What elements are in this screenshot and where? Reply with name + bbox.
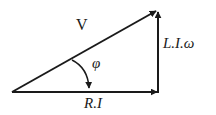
phasor-diagram: V φ L.I.ω R.I (0, 0, 216, 115)
phi-angle-arc (72, 60, 89, 88)
liw-label: L.I.ω (162, 35, 194, 51)
phi-label: φ (92, 55, 100, 71)
ri-label: R.I (83, 95, 103, 111)
v-label: V (76, 16, 88, 33)
